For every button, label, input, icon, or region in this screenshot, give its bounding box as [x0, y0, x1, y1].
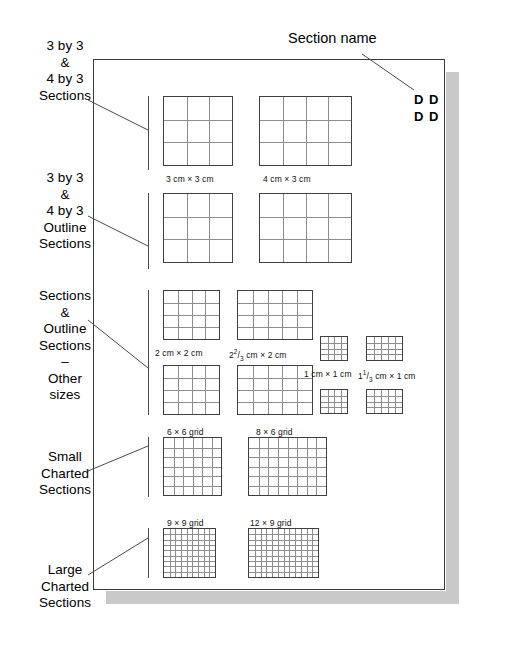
grid-rules [321, 337, 347, 360]
caption-9-by-9-grid: 9 × 9 grid [167, 518, 204, 528]
grid-rules [164, 97, 232, 165]
fraction-numerator: 2 [234, 348, 238, 355]
page-title: Section name [288, 30, 377, 46]
grid-rules [260, 194, 351, 262]
fraction-numerator: 1 [363, 369, 367, 376]
grid-rules [238, 366, 312, 414]
caption-1-and-a-third-cm-by-1cm: 11/3 cm × 1 cm [358, 369, 416, 383]
bracket-outline-sections [148, 193, 149, 269]
dd-marks: D D D D [414, 91, 439, 125]
swatch-2-and-two-thirds-cm-by-2cm[interactable] [237, 290, 313, 340]
caption-8-by-6-grid: 8 × 6 grid [256, 427, 293, 437]
swatch-1-and-a-third-cm-by-1cm-outline[interactable] [366, 389, 403, 414]
bracket-small-charted [148, 437, 149, 497]
bracket-other-sizes [148, 290, 149, 415]
sidebar-item-other-sizes: Sections & Outline Sections – Other size… [10, 288, 120, 404]
swatch-2cm-by-2cm-outline[interactable] [163, 365, 220, 415]
sidebar-item-small-charted-sections: Small Charted Sections [10, 449, 120, 499]
grid-rules [367, 337, 402, 360]
swatch-12-by-9-grid[interactable] [248, 528, 319, 578]
bracket-large-charted [148, 528, 149, 578]
swatch-9-by-9-grid[interactable] [163, 528, 216, 578]
grid-rules [164, 438, 221, 495]
swatch-4cm-by-3cm-outline[interactable] [259, 193, 352, 263]
fraction-one-third: 11/3 [358, 369, 373, 383]
grid-rules [238, 291, 312, 339]
caption-2cm-by-2cm: 2 cm × 2 cm [155, 348, 203, 358]
fraction-suffix: cm × 2 cm [244, 350, 287, 360]
swatch-6-by-6-grid[interactable] [163, 437, 222, 496]
swatch-2cm-by-2cm[interactable] [163, 290, 220, 340]
fraction-suffix: cm × 1 cm [373, 371, 416, 381]
swatch-3cm-by-3cm-outline[interactable] [163, 193, 233, 263]
caption-2-and-two-thirds-cm-by-2cm: 22/3 cm × 2 cm [229, 348, 287, 362]
swatch-4cm-by-3cm[interactable] [259, 96, 352, 166]
swatch-8-by-6-grid[interactable] [248, 437, 327, 496]
caption-1cm-by-1cm: 1 cm × 1 cm [304, 369, 352, 379]
swatch-1cm-by-1cm-outline[interactable] [320, 389, 348, 414]
sheet-shadow-bottom [106, 591, 459, 604]
caption-12-by-9-grid: 12 × 9 grid [250, 518, 292, 528]
grid-rules [260, 97, 351, 165]
sheet-shadow-right [446, 72, 459, 591]
grid-rules [367, 390, 402, 413]
sidebar-item-three-by-three-outline-sections: 3 by 3 & 4 by 3 Outline Sections [10, 170, 120, 253]
swatch-1-and-a-third-cm-by-1cm[interactable] [366, 336, 403, 361]
caption-3cm-by-3cm: 3 cm × 3 cm [166, 174, 214, 184]
caption-4cm-by-3cm: 4 cm × 3 cm [263, 174, 311, 184]
swatch-3cm-by-3cm[interactable] [163, 96, 233, 166]
grid-rules [164, 529, 215, 577]
dd-marks-row-2: D D [414, 108, 439, 125]
swatch-2-and-two-thirds-cm-by-2cm-outline[interactable] [237, 365, 313, 415]
grid-rules [164, 291, 219, 339]
grid-rules [321, 390, 347, 413]
sidebar-item-three-by-three-sections: 3 by 3 & 4 by 3 Sections [10, 38, 120, 104]
caption-6-by-6-grid: 6 × 6 grid [167, 427, 204, 437]
grid-rules [164, 366, 219, 414]
fraction-two-thirds: 22/3 [229, 348, 244, 362]
bracket-three-by-three [148, 96, 149, 170]
grid-rules [249, 438, 326, 495]
swatch-1cm-by-1cm[interactable] [320, 336, 348, 361]
sidebar-item-large-charted-sections: Large Charted Sections [10, 562, 120, 612]
grid-rules [249, 529, 318, 577]
grid-rules [164, 194, 232, 262]
figure-canvas: Section name D D D D 3 by 3 & 4 by 3 Sec… [0, 0, 532, 656]
dd-marks-row-1: D D [414, 91, 439, 108]
